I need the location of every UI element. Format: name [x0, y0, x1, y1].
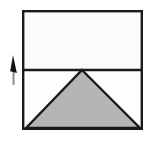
up-arrow-head-icon	[10, 55, 17, 73]
figure-canvas	[0, 0, 161, 141]
upper-region	[23, 11, 142, 69]
figure-container	[0, 0, 161, 141]
